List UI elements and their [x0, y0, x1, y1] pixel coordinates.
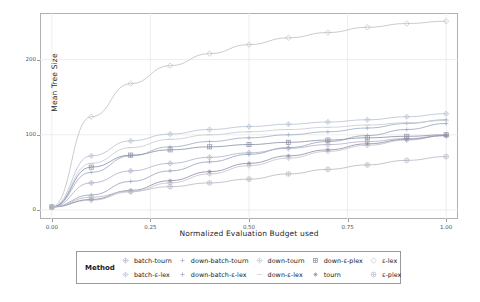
- legend-marker-icon: [254, 255, 265, 266]
- legend-title: Method: [81, 264, 120, 272]
- y-tick-mark: [37, 60, 40, 61]
- legend-marker-icon: [368, 269, 379, 280]
- gridlines: [40, 13, 458, 219]
- legend-box: Method batch-tourndown-batch-tourndown-t…: [76, 251, 401, 284]
- legend-marker-icon: [177, 269, 188, 280]
- legend-item-label: down-ε-plex: [324, 257, 363, 265]
- y-tick-label: 100: [14, 131, 36, 137]
- x-tick-mark: [348, 219, 349, 222]
- legend-item[interactable]: down-batch-ε-lex: [177, 269, 249, 280]
- y-axis-label: Mean Tree Size: [50, 23, 59, 143]
- legend-item-label: batch-tourn: [134, 257, 172, 265]
- legend-item-label: batch-ε-lex: [134, 271, 170, 279]
- legend-marker-icon: [310, 269, 321, 280]
- y-tick-label: 0: [14, 206, 36, 212]
- legend-marker-icon: [120, 255, 131, 266]
- legend-item-label: down-batch-tourn: [191, 257, 249, 265]
- x-tick-mark: [249, 219, 250, 222]
- legend-item[interactable]: down-ε-lex: [254, 269, 305, 280]
- legend-item-label: ε-plex: [382, 271, 402, 279]
- legend-marker-icon: [368, 255, 379, 266]
- legend-item[interactable]: down-tourn: [254, 255, 305, 266]
- chart-canvas: [40, 13, 458, 219]
- legend-item-label: tourn: [324, 271, 341, 279]
- y-tick-label: 200: [14, 56, 36, 62]
- y-tick-mark: [37, 210, 40, 211]
- x-tick-mark: [52, 219, 53, 222]
- legend-items: batch-tourndown-batch-tourndown-tourndow…: [120, 254, 402, 282]
- legend-item-label: down-tourn: [268, 257, 305, 265]
- y-tick-mark: [37, 135, 40, 136]
- legend-item-label: down-ε-lex: [268, 271, 303, 279]
- legend-item[interactable]: ε-lex: [368, 255, 402, 266]
- legend-item[interactable]: down-batch-tourn: [177, 255, 249, 266]
- legend-marker-icon: [120, 269, 131, 280]
- x-tick-mark: [446, 219, 447, 222]
- figure-panel: 0100200 0.000.250.500.751.00 Mean Tree S…: [0, 0, 480, 302]
- legend-item-label: ε-lex: [382, 257, 397, 265]
- legend-marker-icon: [254, 269, 265, 280]
- legend-marker-icon: [310, 255, 321, 266]
- legend-item[interactable]: tourn: [310, 269, 363, 280]
- plot-area: 0100200 0.000.250.500.751.00 Mean Tree S…: [0, 0, 480, 240]
- legend-marker-icon: [177, 255, 188, 266]
- legend-item-label: down-batch-ε-lex: [191, 271, 247, 279]
- x-axis-label: Normalized Evaluation Budget used: [40, 229, 458, 238]
- legend-item[interactable]: ε-plex: [368, 269, 402, 280]
- legend-item[interactable]: down-ε-plex: [310, 255, 363, 266]
- legend-item[interactable]: batch-tourn: [120, 255, 172, 266]
- legend-item[interactable]: batch-ε-lex: [120, 269, 172, 280]
- x-tick-mark: [150, 219, 151, 222]
